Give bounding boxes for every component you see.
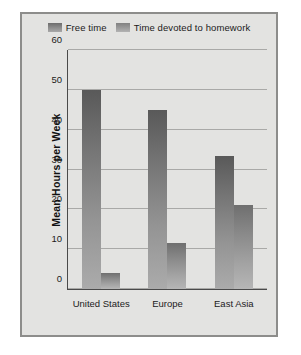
bar-free-time[interactable] bbox=[148, 110, 167, 289]
x-tick-label: United States bbox=[73, 298, 130, 309]
bar-homework[interactable] bbox=[167, 243, 186, 289]
chart-legend: Free time Time devoted to homework bbox=[22, 22, 276, 33]
chart-figure: Free time Time devoted to homework Mean … bbox=[20, 12, 278, 337]
bar-groups: United States Europe East Asia bbox=[68, 50, 267, 289]
bar-group-east-asia: East Asia bbox=[201, 50, 267, 289]
legend-swatch-homework-icon bbox=[116, 23, 130, 32]
bar-homework[interactable] bbox=[234, 205, 253, 289]
y-tick-label: 30 bbox=[51, 153, 62, 164]
y-tick-label: 10 bbox=[51, 233, 62, 244]
legend-swatch-free-time-icon bbox=[48, 23, 62, 32]
y-tick-label: 50 bbox=[51, 73, 62, 84]
legend-item-homework: Time devoted to homework bbox=[116, 22, 251, 33]
y-tick-label: 0 bbox=[57, 273, 62, 284]
legend-label-homework: Time devoted to homework bbox=[134, 22, 251, 33]
plot-area: 0 10 20 30 40 50 60 United States Europe bbox=[67, 50, 267, 290]
bar-homework[interactable] bbox=[101, 273, 120, 289]
x-tick-label: Europe bbox=[152, 298, 183, 309]
bar-group-europe: Europe bbox=[134, 50, 200, 289]
y-tick-label: 40 bbox=[51, 113, 62, 124]
y-tick-label: 60 bbox=[51, 34, 62, 45]
bar-group-united-states: United States bbox=[68, 50, 134, 289]
legend-item-free-time: Free time bbox=[48, 22, 107, 33]
y-tick-label: 20 bbox=[51, 193, 62, 204]
legend-label-free-time: Free time bbox=[66, 22, 107, 33]
x-tick-label: East Asia bbox=[214, 298, 254, 309]
bar-free-time[interactable] bbox=[82, 90, 101, 289]
bar-free-time[interactable] bbox=[215, 156, 234, 289]
